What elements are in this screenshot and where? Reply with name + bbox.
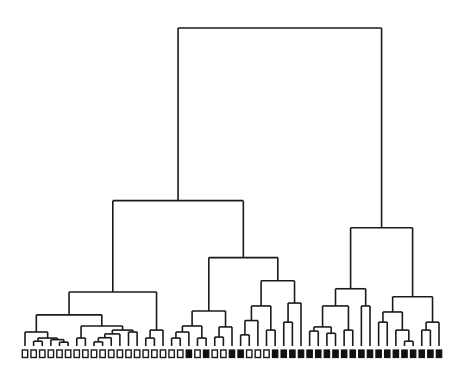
leaf-marker-open bbox=[160, 350, 165, 358]
leaf-marker-open bbox=[212, 350, 217, 358]
leaf-marker-open bbox=[134, 350, 139, 358]
leaf-marker-filled bbox=[203, 350, 208, 358]
leaf-marker-filled bbox=[238, 350, 243, 358]
dendrogram-leaf-markers bbox=[22, 350, 441, 358]
leaf-marker-open bbox=[117, 350, 122, 358]
leaf-marker-filled bbox=[419, 350, 424, 358]
leaf-marker-filled bbox=[290, 350, 295, 358]
leaf-marker-open bbox=[22, 350, 27, 358]
leaf-marker-filled bbox=[376, 350, 381, 358]
leaf-marker-open bbox=[152, 350, 157, 358]
leaf-marker-filled bbox=[410, 350, 415, 358]
leaf-marker-open bbox=[178, 350, 183, 358]
leaf-marker-open bbox=[169, 350, 174, 358]
leaf-marker-open bbox=[83, 350, 88, 358]
leaf-marker-open bbox=[264, 350, 269, 358]
leaf-marker-open bbox=[255, 350, 260, 358]
leaf-marker-filled bbox=[402, 350, 407, 358]
leaf-marker-filled bbox=[324, 350, 329, 358]
dendrogram bbox=[0, 0, 461, 381]
leaf-marker-filled bbox=[281, 350, 286, 358]
leaf-marker-open bbox=[74, 350, 79, 358]
dendrogram-links bbox=[25, 28, 439, 346]
leaf-marker-filled bbox=[359, 350, 364, 358]
leaf-marker-filled bbox=[298, 350, 303, 358]
leaf-marker-open bbox=[221, 350, 226, 358]
leaf-marker-filled bbox=[316, 350, 321, 358]
leaf-marker-filled bbox=[229, 350, 234, 358]
leaf-marker-filled bbox=[436, 350, 441, 358]
leaf-marker-open bbox=[65, 350, 70, 358]
leaf-marker-filled bbox=[307, 350, 312, 358]
leaf-marker-filled bbox=[393, 350, 398, 358]
leaf-marker-filled bbox=[385, 350, 390, 358]
leaf-marker-filled bbox=[341, 350, 346, 358]
leaf-marker-open bbox=[40, 350, 45, 358]
leaf-marker-open bbox=[31, 350, 36, 358]
leaf-marker-open bbox=[126, 350, 131, 358]
leaf-marker-filled bbox=[272, 350, 277, 358]
leaf-marker-open bbox=[109, 350, 114, 358]
leaf-marker-filled bbox=[333, 350, 338, 358]
leaf-marker-open bbox=[100, 350, 105, 358]
leaf-marker-open bbox=[91, 350, 96, 358]
leaf-marker-filled bbox=[367, 350, 372, 358]
leaf-marker-open bbox=[143, 350, 148, 358]
leaf-marker-filled bbox=[186, 350, 191, 358]
leaf-marker-open bbox=[247, 350, 252, 358]
leaf-marker-filled bbox=[428, 350, 433, 358]
leaf-marker-open bbox=[57, 350, 62, 358]
leaf-marker-filled bbox=[350, 350, 355, 358]
leaf-marker-open bbox=[195, 350, 200, 358]
leaf-marker-open bbox=[48, 350, 53, 358]
